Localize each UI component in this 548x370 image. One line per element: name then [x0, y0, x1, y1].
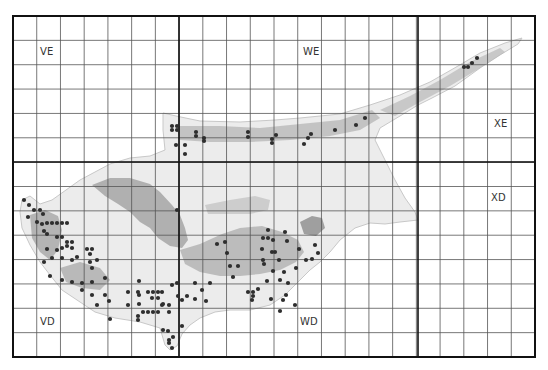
- square-label-ve: VE: [40, 46, 54, 57]
- record-dot: [70, 240, 74, 244]
- record-dot: [65, 221, 69, 225]
- record-dot: [90, 280, 94, 284]
- record-dot: [90, 293, 94, 297]
- record-dot: [223, 240, 227, 244]
- record-dot: [313, 243, 317, 247]
- record-dot: [304, 258, 308, 262]
- record-dot: [175, 128, 179, 132]
- record-dot: [137, 302, 141, 306]
- record-dot: [60, 221, 64, 225]
- record-dot: [363, 116, 367, 120]
- record-dot: [170, 124, 174, 128]
- record-dot: [265, 279, 269, 283]
- record-dot: [103, 276, 107, 280]
- record-dot: [171, 335, 175, 339]
- record-dot: [146, 290, 150, 294]
- record-dot: [22, 198, 26, 202]
- record-dot: [90, 247, 94, 251]
- record-dot: [42, 260, 46, 264]
- record-dot: [266, 236, 270, 240]
- record-dot: [466, 65, 470, 69]
- record-dot: [70, 258, 74, 262]
- record-dot: [208, 281, 212, 285]
- record-dot: [170, 346, 174, 350]
- record-dot: [50, 221, 54, 225]
- mountain-region: [380, 48, 505, 116]
- record-dot: [183, 152, 187, 156]
- distribution-map: [0, 0, 548, 370]
- square-label-wd: WD: [300, 316, 318, 327]
- record-dot: [150, 296, 154, 300]
- record-dot: [266, 228, 270, 232]
- record-dot: [151, 310, 155, 314]
- record-dot: [180, 298, 184, 302]
- record-dot: [85, 247, 89, 251]
- record-dot: [251, 294, 255, 298]
- record-dot: [170, 283, 174, 287]
- record-dot: [246, 130, 250, 134]
- record-dot: [282, 270, 286, 274]
- record-dot: [151, 290, 155, 294]
- record-dot: [277, 258, 281, 262]
- record-dot: [278, 278, 282, 282]
- record-dot: [228, 264, 232, 268]
- record-dot: [136, 318, 140, 322]
- record-dot: [194, 130, 198, 134]
- square-label-vd: VD: [40, 316, 55, 327]
- record-dot: [175, 208, 179, 212]
- record-dot: [90, 266, 94, 270]
- square-label-xd: XD: [491, 192, 506, 203]
- record-dot: [95, 303, 99, 307]
- record-dot: [260, 247, 264, 251]
- record-dot: [271, 269, 275, 273]
- record-dot: [45, 232, 49, 236]
- record-dot: [50, 256, 54, 260]
- record-dot: [306, 136, 310, 140]
- record-dot: [246, 135, 250, 139]
- record-dot: [55, 221, 59, 225]
- record-dot: [166, 329, 170, 333]
- record-dot: [231, 275, 235, 279]
- record-dot: [202, 139, 206, 143]
- record-dot: [156, 296, 160, 300]
- record-dot: [126, 303, 130, 307]
- record-dot: [146, 310, 150, 314]
- record-dot: [180, 324, 184, 328]
- record-dot: [193, 281, 197, 285]
- record-dot: [270, 137, 274, 141]
- record-dot: [35, 220, 39, 224]
- record-dot: [302, 142, 306, 146]
- record-dot: [60, 278, 64, 282]
- record-dot: [250, 298, 254, 302]
- record-dot: [174, 143, 178, 147]
- record-dot: [26, 215, 30, 219]
- record-dot: [60, 235, 64, 239]
- record-dot: [285, 239, 289, 243]
- record-dot: [55, 235, 59, 239]
- record-dot: [40, 222, 44, 226]
- record-dot: [170, 128, 174, 132]
- record-dot: [262, 262, 266, 266]
- island-landmass: [20, 38, 522, 350]
- record-dot: [246, 290, 250, 294]
- record-dot: [286, 281, 290, 285]
- record-dot: [236, 264, 240, 268]
- record-dot: [193, 297, 197, 301]
- square-label-we: WE: [303, 46, 320, 57]
- record-dot: [141, 310, 145, 314]
- record-dot: [41, 212, 45, 216]
- record-dot: [45, 247, 49, 251]
- record-dot: [261, 258, 265, 262]
- record-dot: [42, 229, 46, 233]
- record-dot: [126, 290, 130, 294]
- square-label-xe: XE: [494, 118, 508, 129]
- record-dot: [309, 132, 313, 136]
- record-dot: [284, 293, 288, 297]
- record-dot: [256, 287, 260, 291]
- record-dot: [333, 128, 337, 132]
- record-dot: [137, 293, 141, 297]
- record-dot: [70, 280, 74, 284]
- record-dot: [293, 303, 297, 307]
- record-dot: [167, 303, 171, 307]
- record-dot: [60, 256, 64, 260]
